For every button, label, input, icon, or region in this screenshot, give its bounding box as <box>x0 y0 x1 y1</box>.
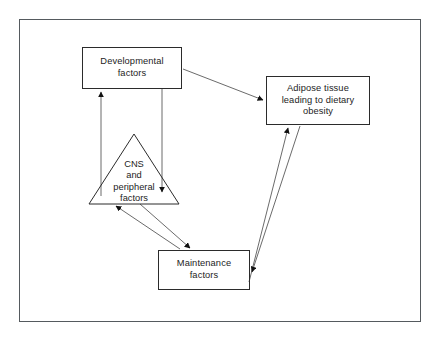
node-adipose-label: Adipose tissue leading to dietary obesit… <box>278 83 359 118</box>
edge-maintenance-to-adipose <box>249 128 288 282</box>
node-developmental-label: Developmental factors <box>96 56 167 79</box>
node-developmental-factors[interactable]: Developmental factors <box>82 47 182 89</box>
edge-maintenance-to-cns <box>116 206 180 249</box>
node-cns-peripheral-factors[interactable]: CNS and peripheral factors <box>88 133 180 205</box>
node-cns-label: CNS and peripheral factors <box>88 159 180 205</box>
diagram-canvas: Developmental factors Adipose tissue lea… <box>0 0 438 337</box>
edge-developmental-to-adipose <box>183 69 263 100</box>
node-adipose-tissue[interactable]: Adipose tissue leading to dietary obesit… <box>266 76 370 125</box>
node-maintenance-factors[interactable]: Maintenance factors <box>158 250 250 290</box>
edge-adipose-to-maintenance <box>252 126 300 272</box>
edge-cns-to-maintenance <box>140 204 190 248</box>
node-maintenance-label: Maintenance factors <box>173 258 235 281</box>
